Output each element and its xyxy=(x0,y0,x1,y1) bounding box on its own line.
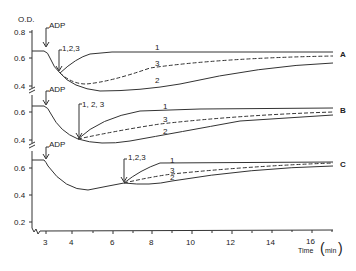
panel-a: ADP 1,2,3 1 3 2 A xyxy=(32,21,346,91)
addition-label-c: 1,2,3 xyxy=(128,153,146,162)
od-time-chart: O.D. 0.8 0.6 0.4 0.6 0.4 0.6 0.4 0.2 xyxy=(0,0,356,271)
curve-b-3-label: 3 xyxy=(163,115,168,124)
curve-c-1-label: 1 xyxy=(170,156,175,165)
y-tick-a-04: 0.4 xyxy=(14,82,26,91)
y-axis-label: O.D. xyxy=(18,15,34,24)
addition-label-a: 1,2,3 xyxy=(62,44,80,53)
y-tick-a-08: 0.8 xyxy=(14,28,26,37)
adp-label-b: ADP xyxy=(49,85,65,94)
x-tick-14: 14 xyxy=(266,238,275,247)
y-axis xyxy=(29,30,40,234)
panel-b-label: B xyxy=(340,106,346,115)
y-tick-a-06: 0.6 xyxy=(14,54,26,63)
x-tick-8: 8 xyxy=(149,238,154,247)
curve-b-1-label: 1 xyxy=(163,102,168,111)
adp-label-a: ADP xyxy=(49,21,65,30)
panel-c-label: C xyxy=(340,160,346,169)
curve-a-2-label: 2 xyxy=(155,76,160,85)
x-axis xyxy=(40,230,333,234)
x-tick-10: 10 xyxy=(186,238,195,247)
x-tick-3: 3 xyxy=(43,238,48,247)
curve-c-2-label: 2 xyxy=(170,173,175,182)
paren-close: ) xyxy=(338,240,343,256)
y-tick-b-04: 0.4 xyxy=(14,136,26,145)
y-tick-c-04: 0.4 xyxy=(14,191,26,200)
x-tick-16: 16 xyxy=(306,237,315,246)
curve-a-1-label: 1 xyxy=(155,43,160,52)
curve-b-2-label: 2 xyxy=(163,127,168,136)
x-tick-6: 6 xyxy=(110,238,115,247)
panel-a-label: A xyxy=(340,50,346,59)
y-tick-c-06: 0.6 xyxy=(14,164,26,173)
x-axis-label: Time xyxy=(298,247,313,254)
y-tick-c-02: 0.2 xyxy=(14,218,26,227)
panel-b: ADP 1, 2, 3 1 3 2 B xyxy=(32,85,346,143)
addition-label-b: 1, 2, 3 xyxy=(82,100,105,109)
adp-label-c: ADP xyxy=(49,140,65,149)
panel-c: ADP 1,2,3 1 3 2 C xyxy=(32,140,346,190)
y-tick-b-06: 0.6 xyxy=(14,108,26,117)
x-axis-unit: min xyxy=(325,247,336,254)
x-tick-4: 4 xyxy=(69,238,74,247)
curve-a-3-label: 3 xyxy=(155,59,160,68)
x-tick-12: 12 xyxy=(226,238,235,247)
